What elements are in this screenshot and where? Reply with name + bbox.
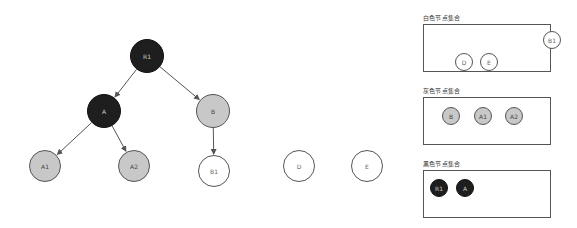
node-A1: A1 xyxy=(29,150,61,182)
edge-R1-A xyxy=(115,69,136,96)
gray-set-node-A1: A1 xyxy=(474,107,492,125)
node-B: B xyxy=(196,94,230,128)
node-A: A xyxy=(87,94,121,128)
node-E: E xyxy=(351,150,383,182)
edge-A-A2 xyxy=(112,126,126,151)
black-node-set: R1A xyxy=(423,170,551,218)
gray-set-node-B: B xyxy=(442,107,460,125)
black-set-node-A: A xyxy=(456,179,474,197)
white-set-title: 白色节点集合 xyxy=(423,13,460,22)
gray-set-node-A2: A2 xyxy=(505,107,523,125)
white-set-node-B1: B1 xyxy=(543,31,561,49)
white-set-node-E: E xyxy=(480,53,498,71)
node-D: D xyxy=(283,150,315,182)
edge-A-A1 xyxy=(57,123,91,155)
node-B1: B1 xyxy=(198,155,230,187)
edge-R1-B xyxy=(160,67,199,100)
gray-set-title: 灰色节点集合 xyxy=(423,86,460,95)
black-set-title: 黑色节点集合 xyxy=(423,159,460,168)
gray-node-set: BA1A2 xyxy=(423,97,551,145)
white-node-set: B1DE xyxy=(423,24,551,72)
node-R1: R1 xyxy=(130,39,164,73)
black-set-node-R1: R1 xyxy=(430,179,448,197)
white-set-node-D: D xyxy=(455,53,473,71)
node-A2: A2 xyxy=(118,150,150,182)
